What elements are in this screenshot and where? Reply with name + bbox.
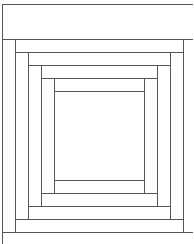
log-cabin-diagram (0, 0, 193, 244)
outer-top-strip (3, 5, 194, 244)
